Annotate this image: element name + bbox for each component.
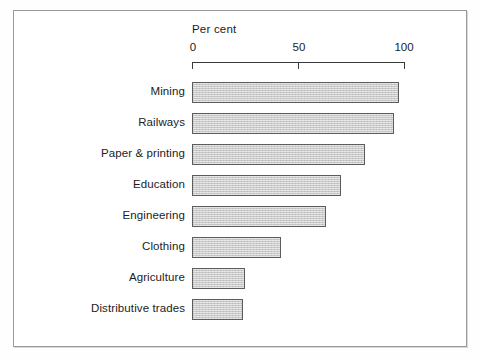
bar-row: Mining — [0, 82, 481, 103]
bar-track — [192, 144, 405, 165]
bar-track — [192, 299, 405, 320]
bar-rect — [192, 299, 243, 320]
bar-rect — [192, 237, 281, 258]
bar-track — [192, 268, 405, 289]
bar-category-label: Railways — [138, 116, 185, 128]
bar-category-label: Paper & printing — [101, 147, 185, 159]
bar-track — [192, 237, 405, 258]
chart-figure: Per cent 0 50 100 Mining Railways Paper … — [0, 0, 481, 361]
bar-track — [192, 175, 405, 196]
bar-rect — [192, 175, 341, 196]
bar-category-label: Education — [133, 178, 185, 190]
bar-rect — [192, 206, 326, 227]
bar-row: Education — [0, 175, 481, 196]
bar-category-label: Mining — [151, 85, 185, 97]
bar-track — [192, 206, 405, 227]
bar-row: Engineering — [0, 206, 481, 227]
bar-track — [192, 82, 405, 103]
bar-category-label: Agriculture — [129, 271, 185, 283]
bar-row: Railways — [0, 113, 481, 134]
bar-category-label: Engineering — [123, 209, 185, 221]
bar-category-label: Distributive trades — [91, 302, 185, 314]
bar-rect — [192, 82, 399, 103]
bar-row: Agriculture — [0, 268, 481, 289]
plot-area: Mining Railways Paper & printing Educati… — [0, 0, 481, 361]
bar-track — [192, 113, 405, 134]
bar-rect — [192, 144, 365, 165]
bar-rect — [192, 113, 394, 134]
bar-category-label: Clothing — [142, 240, 185, 252]
bar-row: Paper & printing — [0, 144, 481, 165]
bar-rect — [192, 268, 245, 289]
bar-row: Clothing — [0, 237, 481, 258]
bar-row: Distributive trades — [0, 299, 481, 320]
